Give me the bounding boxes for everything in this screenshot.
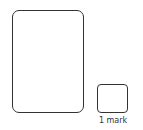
working-box[interactable] (12, 10, 84, 113)
answer-box[interactable] (97, 84, 128, 113)
marks-label: 1 mark (95, 116, 131, 126)
